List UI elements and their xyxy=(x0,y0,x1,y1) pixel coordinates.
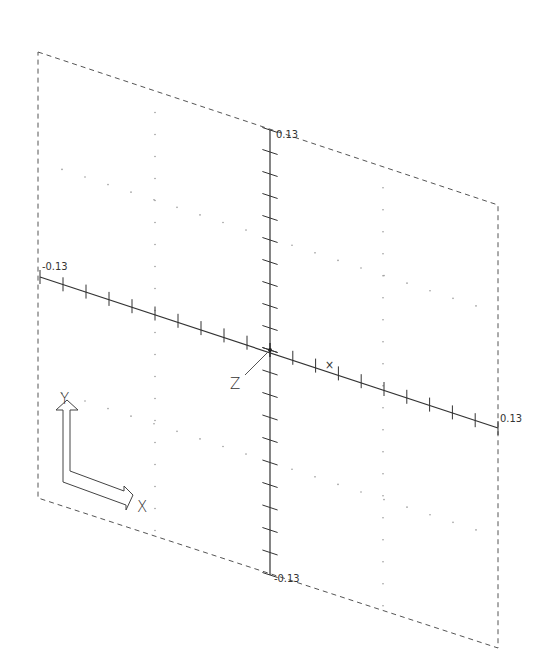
grid-dot xyxy=(382,297,384,299)
grid-dot xyxy=(154,464,156,466)
grid-dot xyxy=(382,209,384,211)
grid-dot xyxy=(245,229,247,231)
grid-dot xyxy=(337,260,339,262)
drawing-viewport[interactable]: -0.13 0.13 0.13 -0.13 × Z Y X xyxy=(0,0,549,670)
grid-dot xyxy=(383,275,385,277)
grid-dot xyxy=(154,508,156,510)
grid-dot xyxy=(382,407,384,409)
grid-dot xyxy=(452,522,454,524)
grid-dot xyxy=(154,486,156,488)
grid-dot xyxy=(154,266,156,268)
grid-dot xyxy=(291,468,293,470)
grid-dot xyxy=(245,453,247,455)
grid-dot xyxy=(382,561,384,563)
grid-dot xyxy=(429,290,431,292)
grid-dot xyxy=(314,252,316,254)
grid-dot xyxy=(154,442,156,444)
grid-dot xyxy=(153,423,155,425)
grid-dot xyxy=(130,415,132,417)
grid-dot xyxy=(382,231,384,233)
grid-dot xyxy=(107,408,109,410)
grid-dot xyxy=(154,244,156,246)
grid-dot xyxy=(176,207,178,209)
grid-dot xyxy=(382,319,384,321)
x-axis-max-label: 0.13 xyxy=(500,412,522,425)
grid-dot xyxy=(382,451,384,453)
grid-dot xyxy=(382,363,384,365)
ucs-y-label: Y xyxy=(60,390,69,408)
grid-dot xyxy=(382,583,384,585)
grid-dot xyxy=(61,169,63,171)
y-axis-max-label: 0.13 xyxy=(276,128,298,141)
grid-dot xyxy=(154,376,156,378)
x-cross-marker: × xyxy=(325,358,334,372)
grid-dot xyxy=(382,429,384,431)
grid-dot xyxy=(154,398,156,400)
grid-dot xyxy=(154,178,156,180)
grid-dot xyxy=(382,517,384,519)
grid-dot xyxy=(154,288,156,290)
grid-dot xyxy=(199,438,201,440)
grid-dot xyxy=(406,506,408,508)
grid-dot xyxy=(382,495,384,497)
grid-dot xyxy=(360,267,362,269)
grid-dot xyxy=(475,529,477,531)
viewport-background xyxy=(0,0,549,670)
grid-dot xyxy=(130,191,132,193)
grid-dot xyxy=(383,499,385,501)
grid-dot xyxy=(337,484,339,486)
z-axis-label: Z xyxy=(230,375,240,393)
x-axis-min-label: -0.13 xyxy=(42,260,68,273)
grid-dot xyxy=(291,244,293,246)
origin-point xyxy=(268,348,272,352)
grid-dot xyxy=(154,112,156,114)
grid-dot xyxy=(360,491,362,493)
grid-dot xyxy=(107,184,109,186)
grid-dot xyxy=(176,431,178,433)
grid-dot xyxy=(222,222,224,224)
grid-dot xyxy=(382,341,384,343)
ucs-x-label: X xyxy=(137,498,147,516)
grid-dot xyxy=(84,400,86,402)
grid-dot xyxy=(154,332,156,334)
grid-dot xyxy=(452,298,454,300)
grid-dot xyxy=(154,222,156,224)
grid-dot xyxy=(314,476,316,478)
grid-dot xyxy=(154,156,156,158)
grid-dot xyxy=(154,134,156,136)
y-axis-min-label: -0.13 xyxy=(274,572,300,585)
grid-dot xyxy=(154,354,156,356)
grid-dot xyxy=(382,187,384,189)
grid-dot xyxy=(475,305,477,307)
grid-dot xyxy=(84,176,86,178)
grid-dot xyxy=(382,539,384,541)
grid-dot xyxy=(153,199,155,201)
grid-dot xyxy=(382,605,384,607)
grid-dot xyxy=(382,253,384,255)
grid-dot xyxy=(406,282,408,284)
grid-dot xyxy=(429,514,431,516)
grid-dot xyxy=(222,446,224,448)
grid-dot xyxy=(154,530,156,532)
grid-dot xyxy=(199,214,201,216)
grid-dot xyxy=(154,420,156,422)
grid-dot xyxy=(382,473,384,475)
